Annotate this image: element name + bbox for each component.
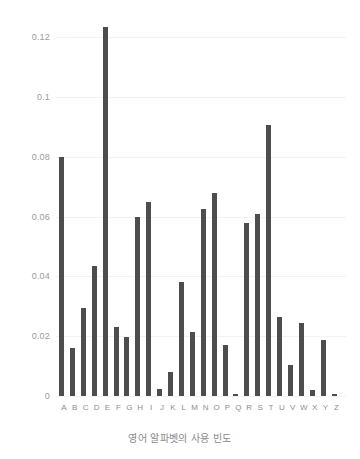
x-axis: A B C D E F G H I J K L M N O P Q R S T …: [56, 0, 346, 459]
y-tick-label: 0.08: [32, 152, 50, 162]
x-axis-title: 영어 알파벳의 사용 빈도: [0, 430, 360, 445]
bar-chart: 0.12 0.1 0.08 0.06 0.04 0.02 0: [0, 0, 360, 459]
y-tick-label: 0.04: [32, 271, 50, 281]
y-tick-label: 0: [45, 391, 50, 401]
y-tick-label: 0.12: [32, 32, 50, 42]
y-tick-label: 0.1: [37, 92, 50, 102]
x-tick-label-z: Z: [331, 403, 343, 412]
y-tick-label: 0.02: [32, 331, 50, 341]
y-axis: 0.12 0.1 0.08 0.06 0.04 0.02 0: [0, 0, 50, 459]
y-tick-label: 0.06: [32, 212, 50, 222]
